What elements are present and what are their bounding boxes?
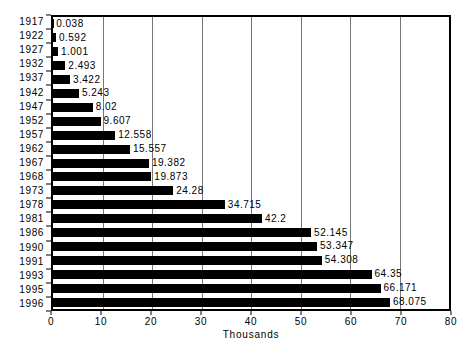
bar-value-label: 0.592 xyxy=(56,33,87,43)
bar-row: 54.308 xyxy=(53,253,449,267)
bar-value-label: 5.243 xyxy=(79,88,110,98)
bar xyxy=(53,117,101,126)
y-axis-label: 1917 xyxy=(0,15,44,29)
y-axis-label: 1981 xyxy=(0,212,44,226)
bar-value-label: 9.607 xyxy=(101,116,132,126)
bar-value-label: 1.001 xyxy=(58,47,89,57)
x-axis-tick xyxy=(201,311,202,315)
bar-row: 68.075 xyxy=(53,295,449,309)
bar-chart: 1917192219271932193719421947195219571962… xyxy=(0,0,475,357)
bar-row: 53.347 xyxy=(53,240,449,254)
y-axis-label: 1922 xyxy=(0,29,44,43)
y-axis-label: 1968 xyxy=(0,170,44,184)
bar-value-label: 3.422 xyxy=(70,75,101,85)
y-axis-label: 1952 xyxy=(0,114,44,128)
bar-value-label: 68.075 xyxy=(390,297,427,307)
y-axis-label: 1995 xyxy=(0,283,44,297)
bar-value-label: 53.347 xyxy=(317,241,354,251)
x-axis-tick xyxy=(101,311,102,315)
x-axis-tick-label: 30 xyxy=(195,317,207,327)
bars-container: 0.0380.5921.0012.4933.4225.2438.029.6071… xyxy=(53,17,449,309)
bar-value-label: 0.038 xyxy=(53,19,84,29)
x-axis-tick xyxy=(351,311,352,315)
bar-row: 66.171 xyxy=(53,281,449,295)
x-axis-tick xyxy=(451,311,452,315)
y-axis-label: 1927 xyxy=(0,43,44,57)
y-axis-label: 1937 xyxy=(0,71,44,85)
y-axis-label: 1986 xyxy=(0,226,44,240)
bar-value-label: 52.145 xyxy=(311,228,348,238)
x-axis-tick-label: 50 xyxy=(295,317,307,327)
bar-row: 15.557 xyxy=(53,142,449,156)
y-axis-label: 1991 xyxy=(0,255,44,269)
bar-value-label: 34.715 xyxy=(225,200,262,210)
bar xyxy=(53,186,173,195)
y-axis-label: 1996 xyxy=(0,297,44,311)
y-axis-label: 1932 xyxy=(0,57,44,71)
bar-row: 12.558 xyxy=(53,128,449,142)
bar-row: 5.243 xyxy=(53,87,449,101)
bar xyxy=(53,200,225,209)
bar xyxy=(53,270,372,279)
bar xyxy=(53,145,130,154)
bar xyxy=(53,75,70,84)
y-axis-label: 1973 xyxy=(0,184,44,198)
bar xyxy=(53,172,151,181)
bar-value-label: 64.35 xyxy=(372,269,403,279)
y-axis-label: 1993 xyxy=(0,269,44,283)
bar xyxy=(53,159,149,168)
bar-row: 24.28 xyxy=(53,184,449,198)
bar-value-label: 54.308 xyxy=(322,255,359,265)
bar xyxy=(53,256,322,265)
bar-row: 52.145 xyxy=(53,226,449,240)
y-axis-label: 1990 xyxy=(0,241,44,255)
bar-row: 3.422 xyxy=(53,73,449,87)
bar-row: 19.873 xyxy=(53,170,449,184)
bar xyxy=(53,298,390,307)
x-axis: 01020304050607080 xyxy=(51,311,451,327)
bar-value-label: 42.2 xyxy=(262,214,286,224)
y-axis-label: 1967 xyxy=(0,156,44,170)
x-axis-tick xyxy=(401,311,402,315)
bar xyxy=(53,61,65,70)
y-axis-label: 1962 xyxy=(0,142,44,156)
y-axis-label: 1947 xyxy=(0,100,44,114)
plot-area: 0.0380.5921.0012.4933.4225.2438.029.6071… xyxy=(51,15,451,311)
y-axis-label: 1942 xyxy=(0,85,44,99)
x-axis-tick-label: 40 xyxy=(245,317,257,327)
bar-row: 0.592 xyxy=(53,31,449,45)
x-axis-tick-label: 10 xyxy=(95,317,107,327)
bar-value-label: 15.557 xyxy=(130,144,167,154)
bar-row: 9.607 xyxy=(53,114,449,128)
y-axis-label: 1957 xyxy=(0,128,44,142)
bar xyxy=(53,103,93,112)
bar-value-label: 66.171 xyxy=(381,283,418,293)
bar-value-label: 24.28 xyxy=(173,186,204,196)
x-axis-title: Thousands xyxy=(51,330,451,340)
bar xyxy=(53,242,317,251)
bar-row: 64.35 xyxy=(53,267,449,281)
bar-row: 1.001 xyxy=(53,45,449,59)
bar xyxy=(53,214,262,223)
x-axis-tick xyxy=(51,311,52,315)
bar-value-label: 8.02 xyxy=(93,102,117,112)
x-axis-tick-label: 0 xyxy=(48,317,54,327)
bar-row: 2.493 xyxy=(53,59,449,73)
bar xyxy=(53,89,79,98)
x-axis-tick-label: 70 xyxy=(395,317,407,327)
bar-row: 34.715 xyxy=(53,198,449,212)
x-axis-tick-label: 20 xyxy=(145,317,157,327)
bar xyxy=(53,228,311,237)
x-axis-tick xyxy=(151,311,152,315)
bar-row: 8.02 xyxy=(53,100,449,114)
y-axis-label: 1978 xyxy=(0,198,44,212)
bar-row: 0.038 xyxy=(53,17,449,31)
bar-row: 19.382 xyxy=(53,156,449,170)
bar-value-label: 19.873 xyxy=(151,172,188,182)
y-axis-labels: 1917192219271932193719421947195219571962… xyxy=(0,15,44,311)
bar xyxy=(53,131,115,140)
x-axis-tick xyxy=(301,311,302,315)
bar-value-label: 12.558 xyxy=(115,130,152,140)
x-axis-tick xyxy=(251,311,252,315)
bar-value-label: 19.382 xyxy=(149,158,186,168)
